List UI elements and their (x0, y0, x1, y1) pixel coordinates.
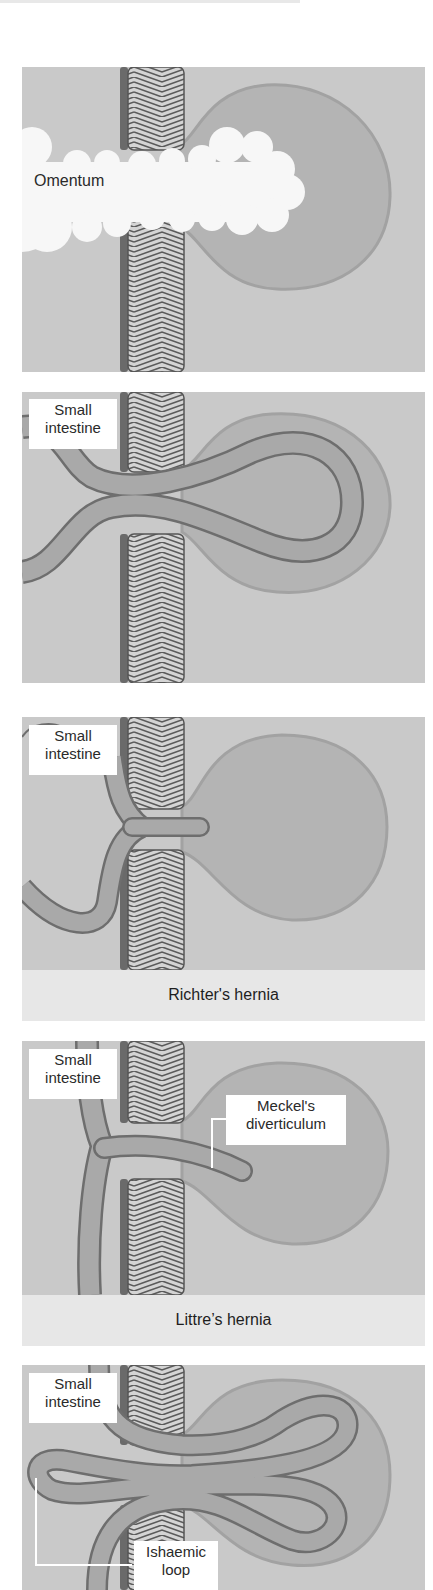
label-small-intestine: Small intestine (29, 1373, 117, 1423)
omentum-hernia-illustration (22, 67, 425, 372)
panel-richter-hernia: Small intestine (22, 717, 425, 970)
panel-omentum: Omentum (22, 67, 425, 372)
label-meckels-diverticulum: Meckel's diverticulum (226, 1095, 346, 1145)
panel-ischaemic-loop: Small intestine Ishaemic loop (22, 1365, 425, 1590)
caption-littre-hernia: Littre’s hernia (22, 1295, 425, 1346)
panel-small-intestine-loop: Small intestine (22, 392, 425, 683)
caption-richter-hernia: Richter's hernia (22, 970, 425, 1021)
panel-littre-hernia: Small intestine Meckel's diverticulum (22, 1041, 425, 1295)
cropped-header-text (0, 0, 433, 4)
label-omentum: Omentum (30, 170, 108, 192)
label-small-intestine: Small intestine (29, 1049, 117, 1099)
label-small-intestine: Small intestine (29, 399, 117, 449)
label-small-intestine: Small intestine (29, 725, 117, 775)
label-ischaemic-loop: Ishaemic loop (134, 1541, 218, 1590)
